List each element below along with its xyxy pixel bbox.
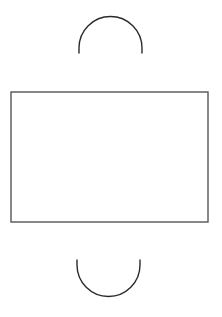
top-semicircle-arc	[79, 17, 142, 53]
rectangle	[11, 92, 208, 222]
diagram-canvas	[0, 0, 222, 317]
cropped-caption-area	[0, 309, 222, 317]
bottom-semicircle-arc	[77, 260, 140, 297]
